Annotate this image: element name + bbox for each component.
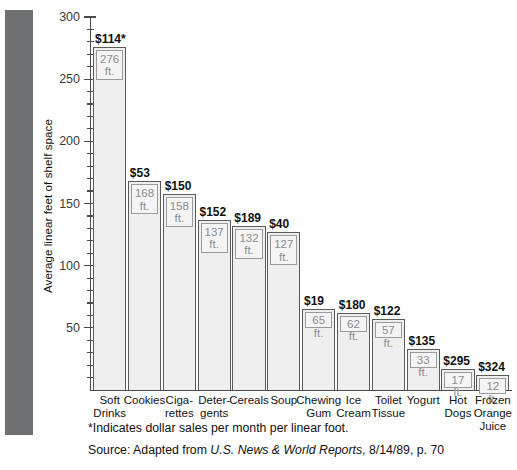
y-axis-tick-labels: 30025020015010050 bbox=[24, 0, 80, 470]
y-axis-minor-tick bbox=[87, 41, 94, 42]
x-axis-line bbox=[90, 390, 512, 391]
y-axis-major-tick bbox=[84, 16, 96, 17]
bar bbox=[93, 47, 126, 390]
bar-value-label: 33 ft. bbox=[410, 352, 437, 368]
source-suffix: , 8/14/89, p. 70 bbox=[362, 443, 444, 457]
bar-dollar-label: $324 bbox=[478, 360, 505, 374]
bar-dollar-label: $135 bbox=[409, 334, 436, 348]
x-axis-category-label: Frozen Orange Juice bbox=[470, 394, 515, 433]
y-axis-tick-label: 150 bbox=[26, 197, 80, 211]
bar-value-label: 276 ft. bbox=[96, 50, 123, 80]
bar-value-label: 12 ft. bbox=[479, 378, 506, 394]
bar-dollar-label: $114* bbox=[95, 32, 126, 46]
bar-dollar-label: $189 bbox=[234, 211, 261, 225]
y-axis-tick-label: 300 bbox=[26, 10, 80, 24]
bar-value-label: 62 ft. bbox=[340, 316, 367, 332]
bar-dollar-label: $152 bbox=[200, 205, 227, 219]
source-prefix: Source: Adapted from bbox=[88, 443, 210, 457]
plot-area: 30025020015010050 276 ft.$114*168 ft.$53… bbox=[0, 0, 517, 470]
bar-value-label: 57 ft. bbox=[375, 322, 402, 338]
bar-value-label: 127 ft. bbox=[270, 235, 297, 265]
footnote-text: *Indicates dollar sales per month per li… bbox=[88, 421, 348, 435]
y-axis-tick-label: 100 bbox=[26, 259, 80, 273]
bar-dollar-label: $19 bbox=[304, 294, 324, 308]
source-text: Source: Adapted from U.S. News & World R… bbox=[88, 443, 444, 457]
y-axis-minor-tick bbox=[87, 29, 94, 30]
bar-value-label: 158 ft. bbox=[166, 197, 193, 227]
bar-dollar-label: $53 bbox=[130, 166, 150, 180]
bar-dollar-label: $122 bbox=[374, 304, 401, 318]
y-axis-tick-label: 200 bbox=[26, 134, 80, 148]
bar-value-label: 132 ft. bbox=[235, 229, 262, 259]
chart-canvas: Average linear feet of shelf space 30025… bbox=[0, 0, 517, 470]
bar-value-label: 17 ft. bbox=[444, 372, 471, 388]
bar-dollar-label: $180 bbox=[339, 298, 366, 312]
bar-dollar-label: $295 bbox=[443, 354, 470, 368]
bar-value-label: 137 ft. bbox=[201, 223, 228, 253]
bar-value-label: 65 ft. bbox=[305, 312, 332, 328]
bar-dollar-label: $40 bbox=[269, 217, 289, 231]
bar-value-label: 168 ft. bbox=[131, 184, 158, 214]
bar-dollar-label: $150 bbox=[165, 179, 192, 193]
y-axis-tick-label: 50 bbox=[26, 321, 80, 335]
source-publication: U.S. News & World Reports bbox=[210, 443, 362, 457]
y-axis-tick-label: 250 bbox=[26, 72, 80, 86]
